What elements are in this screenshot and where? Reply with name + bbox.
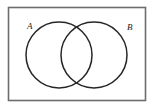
venn-diagram-canvas <box>0 0 154 110</box>
set-b-label: B <box>127 23 133 32</box>
venn-diagram: A B <box>0 0 154 110</box>
set-a-label: A <box>27 22 33 31</box>
